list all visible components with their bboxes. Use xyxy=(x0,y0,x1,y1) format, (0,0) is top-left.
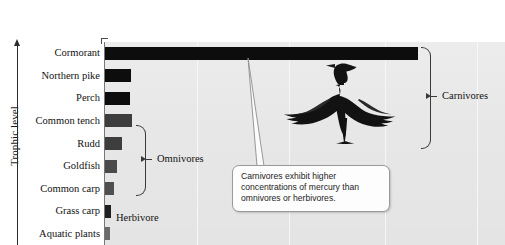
category-label: Rudd xyxy=(77,138,100,149)
bar xyxy=(105,92,130,105)
category-label: Cormorant xyxy=(55,47,101,58)
callout-pointer-line xyxy=(247,58,287,168)
category-label: Perch xyxy=(76,92,100,103)
callout-box: Carnivores exhibit higher concentrations… xyxy=(232,165,390,212)
bar xyxy=(105,227,110,240)
group-label-carnivores: Carnivores xyxy=(442,90,488,101)
group-label-omnivores: Omnivores xyxy=(157,153,204,164)
gridline-0 xyxy=(197,42,198,245)
category-label: Common carp xyxy=(40,183,100,194)
category-label: Northern pike xyxy=(41,70,100,81)
y-axis-group: Trophic level xyxy=(0,42,26,245)
bar xyxy=(105,205,111,218)
bracket-omnivores-nub xyxy=(145,159,152,160)
gridline-3 xyxy=(477,42,478,245)
group-label-herbivore: Herbivore xyxy=(116,212,159,223)
callout-text: Carnivores exhibit higher concentrations… xyxy=(241,171,382,205)
bracket-carnivores-nub xyxy=(430,96,437,97)
bar xyxy=(105,160,117,173)
category-label: Common tench xyxy=(36,115,100,126)
category-label: Grass carp xyxy=(55,205,100,216)
category-label-list: CormorantNorthern pikePerchCommon tenchR… xyxy=(26,42,103,245)
bar xyxy=(105,182,114,195)
cormorant-bird-icon xyxy=(283,63,405,145)
bar xyxy=(105,137,122,150)
bar xyxy=(105,69,131,82)
category-label: Goldfish xyxy=(63,160,100,171)
y-axis-arrow-icon xyxy=(17,44,18,245)
y-axis-title: Trophic level xyxy=(8,36,20,236)
chart-figure: Trophic level CormorantNorthern pikePerc… xyxy=(0,0,505,245)
category-label: Aquatic plants xyxy=(39,228,100,239)
bar xyxy=(105,114,132,127)
